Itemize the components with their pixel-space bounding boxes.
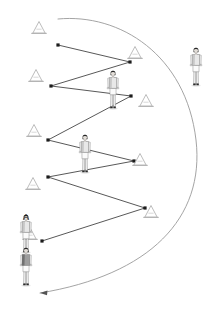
player-2 — [190, 48, 202, 87]
cone-4 — [139, 95, 153, 107]
cone-1 — [32, 22, 46, 34]
cone-5 — [27, 125, 41, 137]
player-1 — [107, 71, 119, 110]
cone-2 — [128, 47, 142, 59]
player-3 — [79, 135, 91, 174]
start-cone-label: A — [23, 213, 29, 222]
drill-diagram: A — [0, 0, 220, 311]
player-5-queue — [20, 248, 32, 287]
drill-canvas — [0, 0, 220, 311]
cone-7 — [26, 178, 40, 190]
cone-3 — [29, 70, 43, 82]
zigzag-path — [42, 45, 145, 241]
